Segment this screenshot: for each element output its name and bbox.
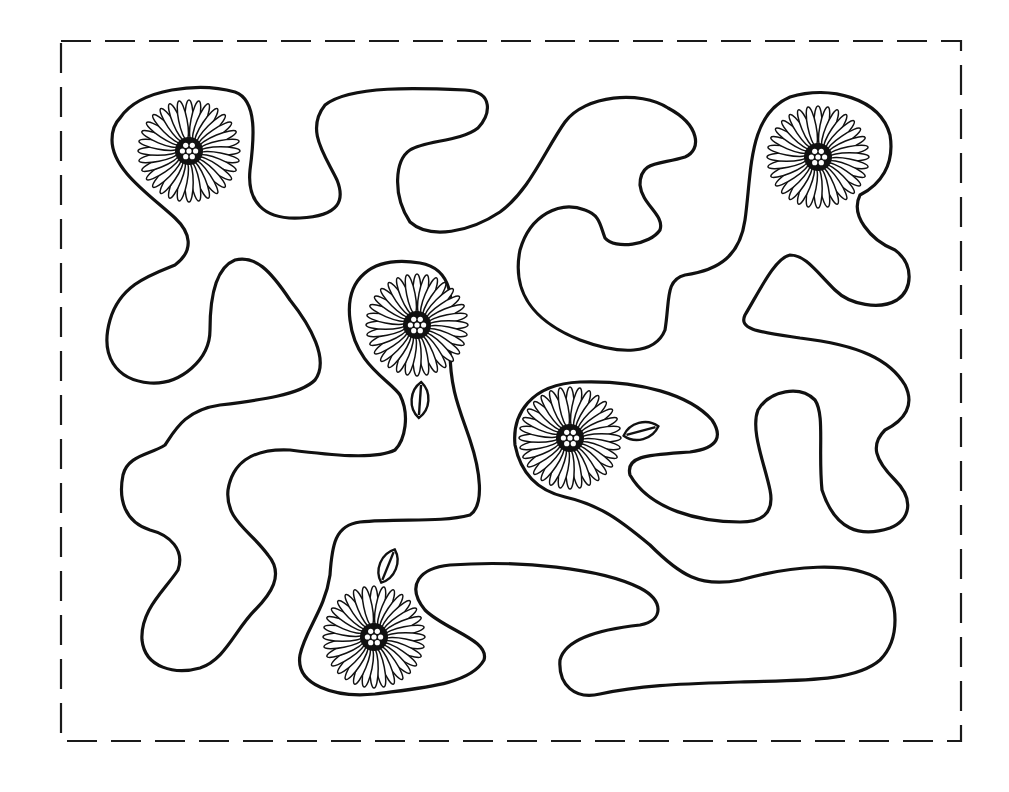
seed-dot-icon bbox=[819, 149, 824, 154]
seed-dot-icon bbox=[375, 640, 380, 645]
seed-dot-icon bbox=[564, 441, 569, 446]
seed-dot-icon bbox=[822, 154, 827, 159]
seed-dot-icon bbox=[812, 160, 817, 165]
seed-dot-icon bbox=[183, 154, 188, 159]
seeds-group bbox=[373, 381, 660, 585]
seed-dot-icon bbox=[180, 148, 185, 153]
seed-dot-icon bbox=[186, 148, 191, 153]
seed-dot-icon bbox=[365, 634, 370, 639]
seed-dot-icon bbox=[408, 322, 413, 327]
seed-dot-icon bbox=[815, 154, 820, 159]
flowers-group bbox=[138, 100, 869, 688]
seed-dot-icon bbox=[411, 317, 416, 322]
seed-dot-icon bbox=[368, 629, 373, 634]
seed-right-icon bbox=[621, 418, 660, 444]
flower-top-right-icon bbox=[767, 106, 869, 208]
seed-dot-icon bbox=[809, 154, 814, 159]
seed-dot-icon bbox=[561, 435, 566, 440]
seed-dot-icon bbox=[421, 322, 426, 327]
seed-dot-icon bbox=[571, 430, 576, 435]
pattern-canvas bbox=[0, 0, 1009, 792]
flower-top-left-icon bbox=[138, 100, 240, 202]
seed-dot-icon bbox=[371, 634, 376, 639]
seed-dot-icon bbox=[418, 328, 423, 333]
seed-dot-icon bbox=[819, 160, 824, 165]
seed-center-icon bbox=[410, 381, 429, 418]
seed-dot-icon bbox=[193, 148, 198, 153]
seed-dot-icon bbox=[183, 143, 188, 148]
seed-dot-icon bbox=[378, 634, 383, 639]
seed-bottom-icon bbox=[373, 546, 402, 586]
seed-dot-icon bbox=[564, 430, 569, 435]
flower-center-icon bbox=[366, 274, 468, 376]
flower-bottom-icon bbox=[323, 586, 425, 688]
seed-dot-icon bbox=[574, 435, 579, 440]
seed-dot-icon bbox=[414, 322, 419, 327]
flower-right-middle-icon bbox=[519, 387, 621, 489]
seed-dot-icon bbox=[812, 149, 817, 154]
seed-dot-icon bbox=[571, 441, 576, 446]
seed-dot-icon bbox=[567, 435, 572, 440]
seed-dot-icon bbox=[190, 154, 195, 159]
seed-dot-icon bbox=[368, 640, 373, 645]
seed-dot-icon bbox=[418, 317, 423, 322]
seed-dot-icon bbox=[190, 143, 195, 148]
seed-dot-icon bbox=[375, 629, 380, 634]
seed-dot-icon bbox=[411, 328, 416, 333]
